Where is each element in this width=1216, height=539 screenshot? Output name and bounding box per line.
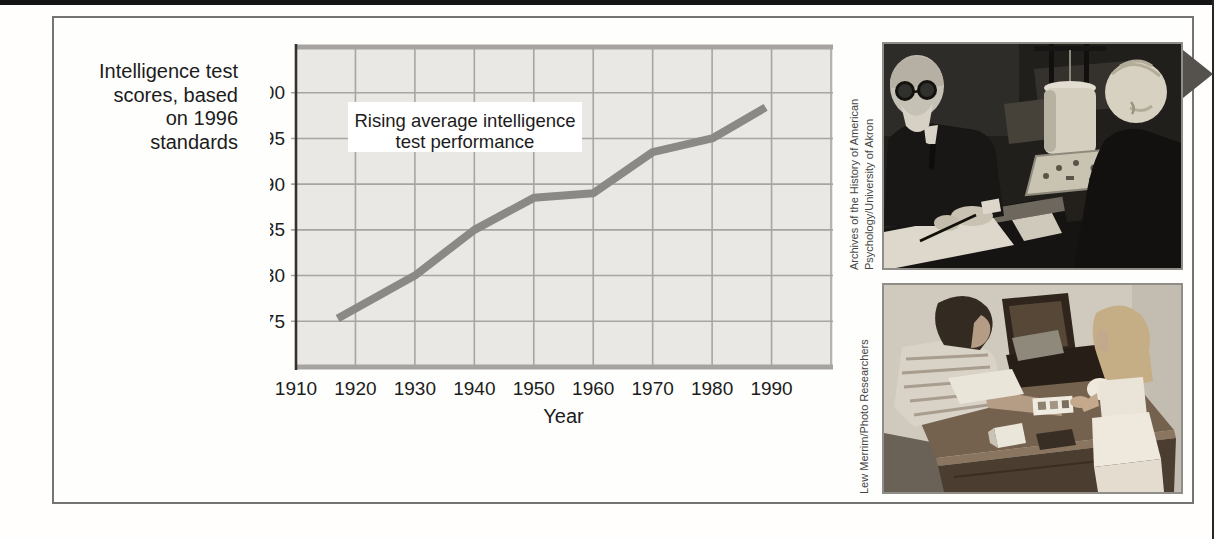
y-axis-label-line: standards <box>58 131 238 155</box>
y-axis-label-line: on 1996 <box>58 107 238 131</box>
svg-text:100: 100 <box>270 82 285 103</box>
svg-text:1990: 1990 <box>750 378 792 399</box>
intelligence-line-chart: 1009590858075191019201930194019501960197… <box>270 30 850 430</box>
credit-line: Psychology/University of Akron <box>862 42 877 270</box>
modern-testing-photo <box>882 283 1183 494</box>
svg-text:80: 80 <box>270 265 285 286</box>
credit-line: Lew Merrim/Photo Researchers <box>857 283 872 494</box>
svg-text:1950: 1950 <box>513 378 555 399</box>
y-axis-label-line: scores, based <box>58 84 238 108</box>
svg-text:1920: 1920 <box>334 378 376 399</box>
y-axis-label: Intelligence test scores, based on 1996 … <box>58 60 238 154</box>
svg-text:1910: 1910 <box>275 378 317 399</box>
page-top-rule <box>0 0 1213 5</box>
photo-credit-bottom: Lew Merrim/Photo Researchers <box>857 283 875 494</box>
svg-text:90: 90 <box>270 174 285 195</box>
svg-text:1980: 1980 <box>691 378 733 399</box>
modern-testing-photo-scene <box>884 285 1181 492</box>
svg-text:Rising average intelligence: Rising average intelligence <box>354 110 575 131</box>
svg-text:1960: 1960 <box>572 378 614 399</box>
early-testing-photo-scene <box>884 44 1181 268</box>
photo-credit-top: Archives of the History of American Psyc… <box>847 42 879 270</box>
svg-text:1940: 1940 <box>453 378 495 399</box>
svg-text:1970: 1970 <box>632 378 674 399</box>
right-arrow-marker <box>1183 50 1213 98</box>
svg-text:95: 95 <box>270 128 285 149</box>
svg-text:1930: 1930 <box>394 378 436 399</box>
svg-text:85: 85 <box>270 219 285 240</box>
svg-text:test performance: test performance <box>396 131 535 152</box>
svg-text:75: 75 <box>270 311 285 332</box>
y-axis-label-line: Intelligence test <box>58 60 238 84</box>
credit-line: Archives of the History of American <box>847 42 862 270</box>
textbook-page: Intelligence test scores, based on 1996 … <box>0 0 1216 539</box>
svg-text:Year: Year <box>543 405 584 427</box>
early-testing-photo <box>882 42 1183 270</box>
